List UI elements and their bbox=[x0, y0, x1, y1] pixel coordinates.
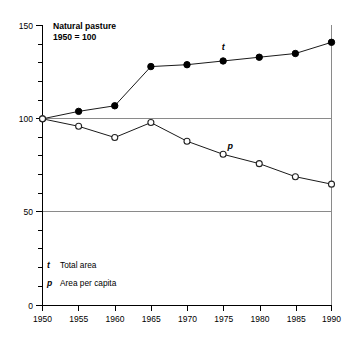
ytick-label-0: 0 bbox=[28, 301, 33, 311]
xtick-label-1965: 1965 bbox=[142, 314, 161, 324]
series-tag-t: t bbox=[222, 42, 226, 52]
datapoint-t-1965 bbox=[148, 63, 154, 69]
xtick-label-1985: 1985 bbox=[287, 314, 306, 324]
xtick-label-1975: 1975 bbox=[214, 314, 233, 324]
legend-key-t: t bbox=[47, 260, 51, 270]
datapoint-p-1955 bbox=[76, 123, 82, 129]
datapoint-p-1985 bbox=[292, 174, 298, 180]
x-axis-tick-labels: 1950 1955 1960 1965 1970 1975 1980 1985 … bbox=[33, 314, 341, 324]
chart-subtitle: 1950 = 100 bbox=[53, 32, 96, 42]
legend-key-p: p bbox=[46, 278, 52, 288]
datapoint-p-1975 bbox=[220, 151, 226, 157]
xtick-label-1970: 1970 bbox=[178, 314, 197, 324]
ytick-label-50: 50 bbox=[24, 207, 34, 217]
xtick-label-1980: 1980 bbox=[251, 314, 270, 324]
series-tag-p: p bbox=[227, 141, 234, 151]
y-axis-minor-ticks bbox=[38, 44, 42, 286]
chart-title-block: Natural pasture 1950 = 100 bbox=[53, 21, 116, 42]
chart-container: 150 100 50 0 1950 1955 1960 1965 1970 19… bbox=[0, 0, 358, 344]
series-line-p bbox=[43, 119, 332, 184]
datapoint-p-1950 bbox=[40, 116, 46, 122]
datapoint-t-1970 bbox=[184, 61, 190, 67]
data-series-layer bbox=[39, 39, 334, 187]
chart-title: Natural pasture bbox=[53, 21, 116, 31]
series-t bbox=[39, 39, 334, 122]
ytick-label-150: 150 bbox=[19, 21, 33, 31]
xtick-label-1955: 1955 bbox=[69, 314, 88, 324]
gridlines bbox=[42, 119, 332, 212]
xtick-label-1990: 1990 bbox=[322, 314, 341, 324]
datapoint-t-1975 bbox=[220, 58, 226, 64]
datapoint-p-1980 bbox=[256, 161, 262, 167]
pasture-index-line-chart: 150 100 50 0 1950 1955 1960 1965 1970 19… bbox=[0, 0, 358, 344]
datapoint-t-1955 bbox=[75, 108, 81, 114]
datapoint-p-1960 bbox=[112, 135, 118, 141]
chart-legend: t Total area p Area per capita bbox=[46, 260, 117, 288]
datapoint-t-1960 bbox=[112, 103, 118, 109]
datapoint-p-1990 bbox=[329, 181, 335, 187]
datapoint-p-1965 bbox=[148, 120, 154, 126]
ytick-label-100: 100 bbox=[19, 114, 33, 124]
xtick-label-1950: 1950 bbox=[33, 314, 52, 324]
series-line-t bbox=[43, 42, 332, 119]
series-p bbox=[40, 116, 335, 187]
datapoint-p-1970 bbox=[184, 138, 190, 144]
datapoint-t-1985 bbox=[292, 50, 298, 56]
y-axis-major-ticks bbox=[36, 26, 42, 306]
y-axis-tick-labels: 150 100 50 0 bbox=[19, 21, 33, 311]
datapoint-t-1990 bbox=[328, 39, 334, 45]
datapoint-t-1980 bbox=[256, 54, 262, 60]
xtick-label-1960: 1960 bbox=[106, 314, 125, 324]
legend-label-t: Total area bbox=[60, 260, 97, 270]
legend-label-p: Area per capita bbox=[60, 278, 117, 288]
